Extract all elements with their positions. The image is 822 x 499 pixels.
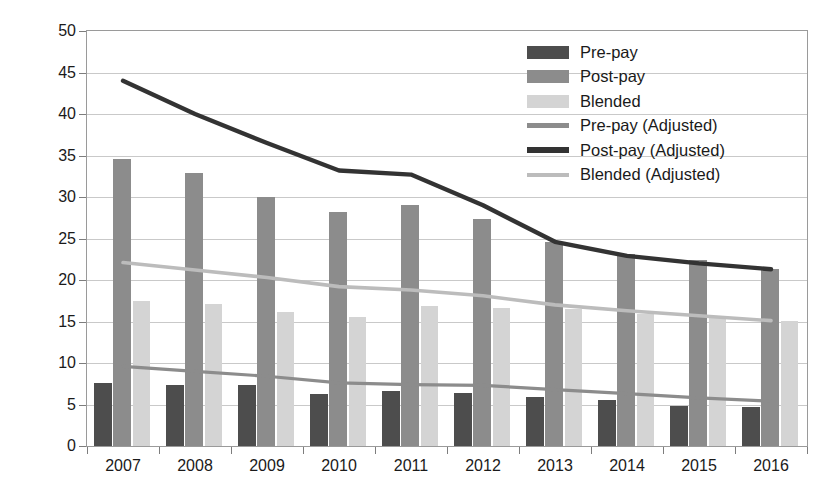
x-axis-label-2013: 2013 bbox=[537, 457, 573, 475]
legend-swatch-line-icon bbox=[527, 147, 569, 153]
x-axis-label-2016: 2016 bbox=[753, 457, 789, 475]
legend-label: Pre-pay bbox=[580, 43, 638, 62]
x-axis-label-2012: 2012 bbox=[465, 457, 501, 475]
line-pre-pay-adjusted- bbox=[123, 366, 771, 401]
y-axis-tick-label: 20 bbox=[40, 271, 76, 289]
x-axis-tick-mark bbox=[447, 447, 448, 454]
x-axis-tick-mark bbox=[159, 447, 160, 454]
x-axis-tick-mark bbox=[303, 447, 304, 454]
x-axis-label-2014: 2014 bbox=[609, 457, 645, 475]
x-axis-tick-mark bbox=[375, 447, 376, 454]
x-axis-label-2008: 2008 bbox=[177, 457, 213, 475]
x-axis-tick-mark bbox=[519, 447, 520, 454]
x-axis-label-2011: 2011 bbox=[394, 457, 428, 475]
legend-item-post-pay-adjusted-[interactable]: Post-pay (Adjusted) bbox=[527, 138, 725, 163]
x-axis-label-2009: 2009 bbox=[249, 457, 285, 475]
legend-item-blended[interactable]: Blended bbox=[527, 89, 725, 114]
x-axis-tick-mark bbox=[231, 447, 232, 454]
chart-legend: Pre-payPost-payBlendedPre-pay (Adjusted)… bbox=[527, 38, 725, 189]
legend-label: Post-pay bbox=[580, 67, 645, 86]
x-axis-label-2015: 2015 bbox=[681, 457, 717, 475]
legend-swatch-bar-icon bbox=[527, 70, 569, 83]
y-axis-tick-label: 5 bbox=[40, 396, 76, 414]
x-axis-tick-mark bbox=[807, 447, 808, 454]
legend-label: Pre-pay (Adjusted) bbox=[580, 116, 718, 135]
legend-swatch-line-icon bbox=[527, 123, 569, 128]
x-axis-label-2010: 2010 bbox=[321, 457, 357, 475]
legend-swatch-line-icon bbox=[527, 173, 569, 177]
legend-label: Blended (Adjusted) bbox=[580, 165, 720, 184]
y-axis-tick-label: 45 bbox=[40, 64, 76, 82]
y-axis-tick-label: 30 bbox=[40, 188, 76, 206]
chart-container: Mobile ARPU per Subscriber (GBP) 0510152… bbox=[0, 0, 822, 499]
y-axis-tick-label: 0 bbox=[40, 437, 76, 455]
legend-item-pre-pay-adjusted-[interactable]: Pre-pay (Adjusted) bbox=[527, 114, 725, 139]
y-axis-tick-label: 35 bbox=[40, 147, 76, 165]
line-blended-adjusted- bbox=[123, 263, 771, 321]
legend-swatch-bar-icon bbox=[527, 95, 569, 108]
y-axis-tick-label: 25 bbox=[40, 230, 76, 248]
x-axis-label-2007: 2007 bbox=[105, 457, 141, 475]
legend-swatch-bar-icon bbox=[527, 46, 569, 59]
y-axis-tick-label: 15 bbox=[40, 313, 76, 331]
x-axis-tick-mark bbox=[735, 447, 736, 454]
legend-item-pre-pay[interactable]: Pre-pay bbox=[527, 40, 725, 65]
legend-item-post-pay[interactable]: Post-pay bbox=[527, 65, 725, 90]
legend-label: Post-pay (Adjusted) bbox=[580, 141, 725, 160]
x-axis-tick-mark bbox=[591, 447, 592, 454]
legend-item-blended-adjusted-[interactable]: Blended (Adjusted) bbox=[527, 163, 725, 188]
legend-label: Blended bbox=[580, 92, 641, 111]
y-axis-tick-label: 50 bbox=[40, 22, 76, 40]
x-axis-tick-mark bbox=[87, 447, 88, 454]
y-axis-tick-label: 40 bbox=[40, 105, 76, 123]
y-axis-tick-label: 10 bbox=[40, 354, 76, 372]
x-axis-tick-mark bbox=[663, 447, 664, 454]
